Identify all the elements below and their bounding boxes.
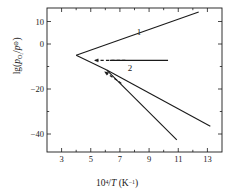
x-tick-label: 11 [174,155,182,164]
chart-figure: 35791113 100−20−40 12 104/T (K−1) lg(pO2… [0,0,234,190]
y-tick-label: −40 [31,130,44,139]
y-axis-title: lg(pO2/p⊖) [12,0,24,116]
series-lower-branch-a [107,70,211,126]
axis-ticks [47,8,222,152]
curve-label-1: 1 [137,27,142,36]
x-axis-title: 104/T (K−1) [0,178,234,188]
data-series [76,12,210,140]
x-tick-label: 3 [59,155,63,164]
y-tick-label: −20 [31,85,44,94]
x-tick-label: 9 [147,155,151,164]
y-tick-label: 0 [40,40,44,49]
curve-label-2: 2 [128,63,133,72]
y-tick-label: 10 [36,17,45,26]
x-tick-label: 7 [118,155,122,164]
plot-frame [47,8,222,152]
arrow-left-on-dashed [94,59,98,62]
x-tick-label: 5 [89,155,93,164]
series-vertex-lower-branch [76,55,107,70]
x-tick-label: 13 [203,155,212,164]
arrow-upleft-on-dashed [105,72,109,76]
series-lower-branch-b [107,70,177,140]
